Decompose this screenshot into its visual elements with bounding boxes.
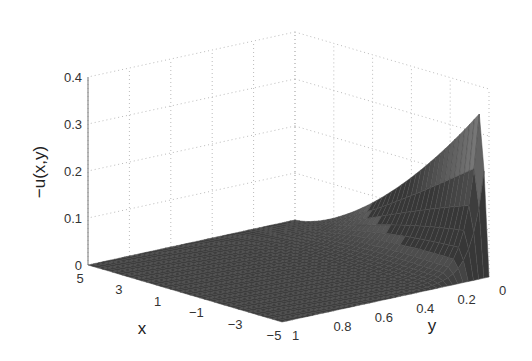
z-axis-label: −u(x,y) <box>30 146 49 198</box>
y-tick-label: 0.2 <box>458 292 476 307</box>
z-tick-label: 0.4 <box>64 70 82 85</box>
y-tick-label: 0.8 <box>333 319 351 334</box>
z-tick-label: 0.1 <box>64 211 82 226</box>
x-tick-label: 1 <box>154 294 161 309</box>
x-tick-label: 5 <box>76 271 83 286</box>
surface-plot: 00.10.20.30.4531−1−3−510.80.60.40.20 −u(… <box>0 0 532 361</box>
y-tick-label: 0 <box>499 283 506 298</box>
y-tick-label: 1 <box>292 328 299 343</box>
z-tick-label: 0.3 <box>64 117 82 132</box>
y-tick-label: 0.6 <box>375 310 393 325</box>
x-tick-label: 3 <box>115 282 122 297</box>
y-axis-label: y <box>428 316 437 335</box>
x-tick-label: −1 <box>189 305 204 320</box>
y-tick-label: 0.4 <box>416 301 434 316</box>
x-tick-label: −5 <box>267 328 282 343</box>
z-tick-label: 0.2 <box>64 164 82 179</box>
x-axis-label: x <box>138 319 147 338</box>
surface-mesh <box>88 114 489 322</box>
x-tick-label: −3 <box>228 317 243 332</box>
